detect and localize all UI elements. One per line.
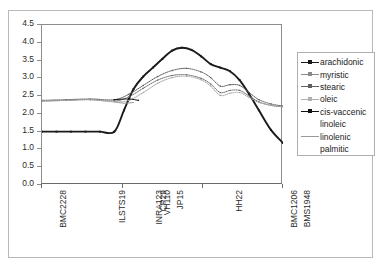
legend-item-label: oleic xyxy=(320,94,337,104)
series-marker xyxy=(258,99,259,100)
legend-item-label: cis-vaccenic xyxy=(320,107,366,117)
series-marker xyxy=(113,131,115,133)
legend-item: myristic xyxy=(300,68,374,80)
legend-item-label: arachidonic xyxy=(320,57,363,67)
series-marker xyxy=(220,95,221,96)
series-marker xyxy=(157,83,158,84)
series-marker xyxy=(220,86,221,87)
x-axis-tick-label: BMC1206 xyxy=(290,190,299,228)
series-marker xyxy=(128,94,129,95)
legend-item: palmitic xyxy=(300,143,374,155)
series-marker xyxy=(239,90,240,91)
series-marker xyxy=(219,67,221,69)
series-marker xyxy=(200,71,201,72)
series-marker xyxy=(133,88,135,90)
chart-figure: 4.54.03.53.02.52.01.51.00.50.0 BMC2228IL… xyxy=(0,0,383,268)
series-marker xyxy=(249,92,250,93)
y-axis-tick-label: 0.0 xyxy=(0,179,34,188)
legend-marker-icon xyxy=(308,97,312,101)
legend-item: cis-vaccenic xyxy=(300,106,374,118)
legend-item: linoleic xyxy=(300,118,374,130)
legend-item-label: myristic xyxy=(320,70,349,80)
series-marker xyxy=(128,98,129,99)
x-axis-tick-label: HH22 xyxy=(235,190,244,212)
y-axis-tick-label: 1.0 xyxy=(0,143,34,152)
series-marker xyxy=(239,92,240,93)
series-marker xyxy=(90,99,91,100)
legend: arachidonicmyristicstearicoleiccis-vacce… xyxy=(297,52,375,156)
series-marker xyxy=(249,97,250,98)
legend-item: oleic xyxy=(300,93,374,105)
legend-marker-icon xyxy=(308,109,312,113)
y-axis-tick-label: 4.5 xyxy=(0,19,34,28)
series-marker xyxy=(128,96,129,97)
legend-key-icon xyxy=(300,81,320,92)
y-axis-tick-label: 4.0 xyxy=(0,37,34,46)
series-marker xyxy=(162,58,164,60)
legend-item-label: stearic xyxy=(320,82,345,92)
series-marker xyxy=(143,88,144,89)
series-marker xyxy=(220,92,221,93)
series-line xyxy=(42,48,283,143)
series-marker xyxy=(210,86,211,87)
series-marker xyxy=(229,84,230,85)
legend-item: stearic xyxy=(300,81,374,93)
series-marker xyxy=(258,109,260,111)
series-marker xyxy=(157,76,158,77)
series-marker xyxy=(229,90,230,91)
series-marker xyxy=(84,131,86,133)
series-marker xyxy=(114,99,115,100)
series-marker xyxy=(258,102,259,103)
series-marker xyxy=(152,67,154,69)
series-marker xyxy=(186,76,187,77)
y-axis-tick-label: 0.5 xyxy=(0,161,34,170)
series-marker xyxy=(270,103,271,104)
series-marker xyxy=(190,49,192,51)
legend-item: linolenic xyxy=(300,130,374,142)
legend-line-icon xyxy=(301,136,319,137)
series-marker xyxy=(200,79,201,80)
y-axis-tick-label: 3.5 xyxy=(0,55,34,64)
x-axis-tick-label: ILSTS19 xyxy=(118,190,127,223)
legend-marker-icon xyxy=(308,84,312,88)
series-canvas xyxy=(42,25,283,185)
series-marker xyxy=(171,50,173,52)
legend-key-icon xyxy=(300,143,320,154)
series-marker xyxy=(66,100,67,101)
series-marker xyxy=(123,109,125,111)
series-marker xyxy=(172,75,173,76)
series-marker xyxy=(200,78,201,79)
series-marker xyxy=(172,70,173,71)
series-marker xyxy=(282,142,283,144)
series-marker xyxy=(210,77,211,78)
series-marker xyxy=(142,76,144,78)
series-marker xyxy=(143,85,144,86)
legend-key-icon xyxy=(300,94,320,105)
series-marker xyxy=(56,131,58,133)
series-marker xyxy=(200,55,202,57)
legend-key-icon xyxy=(300,131,320,142)
series-marker xyxy=(181,47,183,49)
series-marker xyxy=(229,70,231,72)
legend-item: arachidonic xyxy=(300,56,374,68)
series-marker xyxy=(99,131,101,133)
series-marker xyxy=(229,93,230,94)
legend-item-label: linoleic xyxy=(320,119,346,129)
series-marker xyxy=(42,131,43,133)
x-axis-tick-label: BMS1948 xyxy=(303,190,312,227)
y-axis-tick-label: 1.5 xyxy=(0,126,34,135)
y-axis-tick-label: 2.5 xyxy=(0,90,34,99)
series-marker xyxy=(128,100,129,101)
series-marker xyxy=(239,79,241,81)
series-myristic xyxy=(42,68,283,107)
series-line xyxy=(42,68,283,106)
series-marker xyxy=(157,80,158,81)
series-marker xyxy=(210,63,212,65)
series-marker xyxy=(270,129,272,131)
y-axis-tick-label: 2.0 xyxy=(0,108,34,117)
legend-item-label: palmitic xyxy=(320,144,349,154)
series-marker xyxy=(282,106,283,107)
series-marker xyxy=(70,131,72,133)
legend-item-label: linolenic xyxy=(320,132,351,142)
series-marker xyxy=(239,85,240,86)
